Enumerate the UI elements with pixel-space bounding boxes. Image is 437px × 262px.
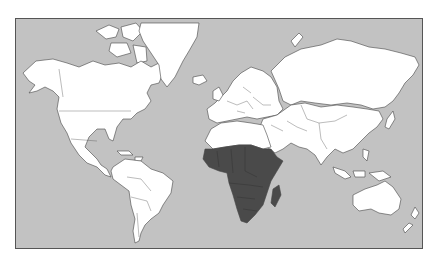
world-map — [15, 18, 423, 249]
map-canvas — [16, 19, 423, 249]
